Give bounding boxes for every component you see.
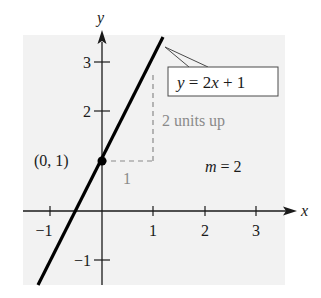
x-tick-label: 1 xyxy=(149,222,157,239)
y-tick-label: −1 xyxy=(74,252,91,269)
x-tick-label: −1 xyxy=(35,222,52,239)
point-label: (0, 1) xyxy=(34,152,69,170)
run-label: 1 xyxy=(123,170,131,187)
y-axis-label: y xyxy=(95,9,105,27)
x-axis-label: x xyxy=(300,202,308,219)
y-tick-label: 2 xyxy=(83,103,91,120)
x-tick-label: 2 xyxy=(201,222,209,239)
slope-graph: x −1 1 2 3 y 3 2 −1 (0, 1) 1 2 units up … xyxy=(0,0,321,298)
x-tick-label: 3 xyxy=(252,222,260,239)
rise-label: 2 units up xyxy=(162,112,225,130)
equation-label: y = 2x + 1 xyxy=(175,73,245,92)
slope-label: m = 2 xyxy=(205,158,242,175)
y-tick-label: 3 xyxy=(83,54,91,71)
y-intercept-point xyxy=(98,157,107,166)
